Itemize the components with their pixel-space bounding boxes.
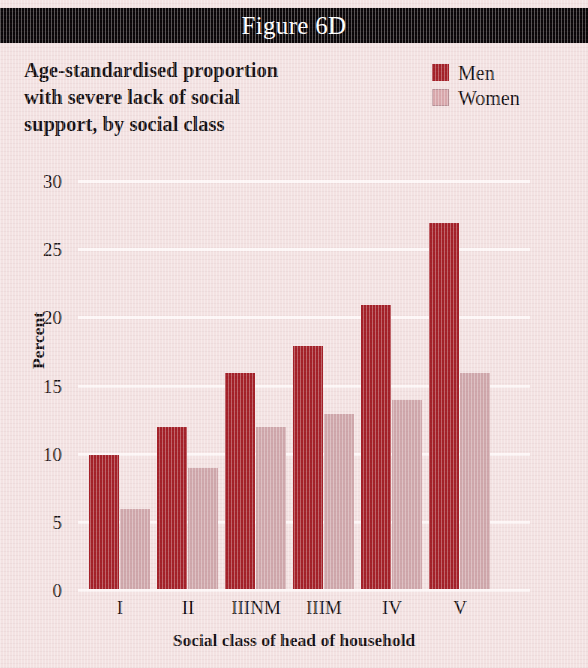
x-tick-label: V xyxy=(400,597,520,619)
bar-men xyxy=(361,305,391,591)
chart-subtitle: Age-standardised proportion with severe … xyxy=(24,57,384,138)
figure-banner: Figure 6D xyxy=(0,8,588,43)
gridline xyxy=(78,248,530,251)
legend-swatch-men-icon xyxy=(432,64,449,81)
legend-item-women: Women xyxy=(432,85,520,110)
bar-men xyxy=(429,223,459,591)
legend-item-men: Men xyxy=(432,60,520,85)
chart-legend: Men Women xyxy=(432,60,520,110)
bar-women xyxy=(392,400,422,591)
gridline xyxy=(78,180,530,183)
bar-women xyxy=(460,373,490,591)
chart-subtitle-line: with severe lack of social xyxy=(24,84,384,111)
x-axis-title: Social class of head of household xyxy=(0,630,588,651)
bar-men xyxy=(157,427,187,591)
bar-women xyxy=(120,509,150,591)
legend-label-women: Women xyxy=(458,88,520,108)
y-axis-title: Percent xyxy=(28,281,49,401)
bar-men xyxy=(225,373,255,591)
chart-subtitle-line: Age-standardised proportion xyxy=(24,57,384,84)
bar-women xyxy=(188,468,218,591)
figure-container: Figure 6D Age-standardised proportion wi… xyxy=(0,0,588,668)
axis-baseline xyxy=(78,589,530,592)
figure-title: Figure 6D xyxy=(0,8,588,43)
legend-swatch-women-icon xyxy=(432,89,449,106)
bar-men xyxy=(293,346,323,591)
plot-area xyxy=(78,182,530,591)
legend-label-men: Men xyxy=(458,63,495,83)
bar-women xyxy=(324,414,354,591)
chart-subtitle-line: support, by social class xyxy=(24,111,384,138)
bar-men xyxy=(89,455,119,591)
bar-women xyxy=(256,427,286,591)
gridline xyxy=(78,316,530,319)
